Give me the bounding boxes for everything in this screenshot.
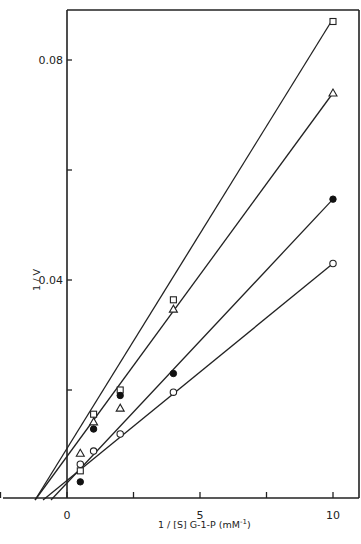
triangle-marker	[329, 89, 337, 96]
square-marker	[91, 411, 97, 417]
data-markers	[76, 19, 337, 486]
open-circle-marker	[90, 448, 96, 454]
plot-frame	[3, 10, 359, 498]
x-axis-title-end: )	[247, 519, 251, 530]
filled-circle-marker	[170, 370, 176, 376]
axes: 05100.040.08	[1, 54, 341, 522]
open-circle-marker	[117, 431, 123, 437]
y-tick-label: 0.04	[39, 274, 64, 287]
x-axis-title: 1 / [S] G-1-P (mM-1)	[158, 518, 251, 530]
x-axis-title-main: 1 / [S] G-1-P (mM	[158, 519, 240, 530]
open-circle-fit-line	[43, 264, 333, 501]
filled-circle-marker	[77, 479, 83, 485]
y-tick-label: 0.08	[39, 54, 64, 67]
x-axis-title-superscript: -1	[240, 518, 247, 526]
triangle-marker	[116, 404, 124, 411]
x-tick-label: 10	[326, 509, 340, 522]
open-circle-marker	[170, 389, 176, 395]
filled-circle-fit-line	[51, 199, 333, 500]
open-square-fit-line	[35, 19, 333, 500]
open-circle-marker	[330, 260, 336, 266]
square-marker	[170, 297, 176, 303]
x-tick-label: 0	[64, 509, 71, 522]
axis-labels: 1 / V 1 / [S] G-1-P (mM-1)	[31, 269, 251, 530]
open-circle-marker	[77, 461, 83, 467]
filled-circle-marker	[330, 196, 336, 202]
lineweaver-burk-plot: 05100.040.08 1 / V 1 / [S] G-1-P (mM-1)	[0, 0, 361, 544]
triangle-marker	[76, 449, 84, 456]
filled-circle-marker	[90, 426, 96, 432]
square-marker	[77, 468, 83, 474]
filled-circle-marker	[117, 392, 123, 398]
open-triangle-fit-line	[35, 93, 333, 500]
y-axis-title: 1 / V	[31, 269, 42, 291]
fit-lines	[35, 19, 333, 500]
triangle-marker	[90, 418, 98, 425]
square-marker	[330, 19, 336, 25]
